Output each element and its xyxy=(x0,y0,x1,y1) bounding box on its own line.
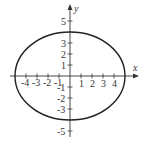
y-tick-label: -3 xyxy=(57,104,65,115)
x-axis-arrow-icon xyxy=(133,74,139,79)
x-tick-label: -3 xyxy=(32,77,40,88)
x-tick-label: 4 xyxy=(112,78,117,89)
x-tick-label: 3 xyxy=(101,78,106,89)
y-tick-label: 5 xyxy=(61,16,66,27)
x-axis-label: x xyxy=(132,62,138,73)
y-axis-label: y xyxy=(73,3,79,14)
y-tick-label: 1 xyxy=(61,60,66,71)
y-tick-label: -2 xyxy=(57,93,65,104)
y-tick-label: -1 xyxy=(57,82,65,93)
x-tick-label: 1 xyxy=(79,78,84,89)
ellipse-plot: y x -4 -3 -2 -1 1 2 3 4 5 3 2 1 -1 -2 -3… xyxy=(0,0,143,144)
y-tick-label: -5 xyxy=(57,126,65,137)
x-tick-label: 2 xyxy=(90,78,95,89)
y-tick-label: 2 xyxy=(61,49,66,60)
y-tick-label: 3 xyxy=(61,38,66,49)
x-tick-label: -4 xyxy=(21,77,29,88)
y-axis-arrow-icon xyxy=(68,4,73,10)
x-tick-label: -2 xyxy=(43,77,51,88)
